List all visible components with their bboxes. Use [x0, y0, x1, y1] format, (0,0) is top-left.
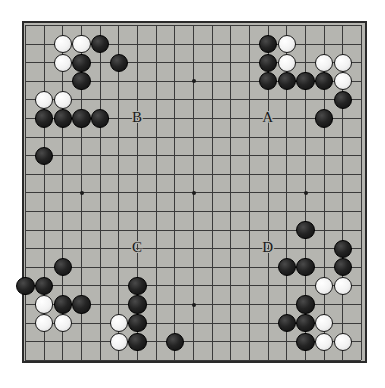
black-stone[interactable]: [315, 72, 333, 90]
black-stone[interactable]: [72, 109, 90, 127]
black-stone[interactable]: [128, 314, 146, 332]
white-stone[interactable]: [54, 54, 72, 72]
black-stone[interactable]: [166, 333, 184, 351]
black-stone[interactable]: [72, 54, 90, 72]
black-stone[interactable]: [296, 295, 314, 313]
white-stone[interactable]: [334, 54, 352, 72]
black-stone[interactable]: [110, 54, 128, 72]
black-stone[interactable]: [54, 295, 72, 313]
black-stone[interactable]: [296, 314, 314, 332]
white-stone[interactable]: [278, 35, 296, 53]
go-diagram: BACD: [0, 0, 385, 388]
black-stone[interactable]: [72, 295, 90, 313]
black-stone[interactable]: [315, 109, 333, 127]
black-stone[interactable]: [54, 109, 72, 127]
black-stone[interactable]: [334, 258, 352, 276]
grid-line-horizontal: [25, 248, 361, 249]
grid-line-vertical: [230, 25, 231, 360]
white-stone[interactable]: [315, 333, 333, 351]
grid-line-vertical: [249, 25, 250, 360]
white-stone[interactable]: [315, 54, 333, 72]
white-stone[interactable]: [110, 314, 128, 332]
grid-line-horizontal: [25, 211, 361, 212]
black-stone[interactable]: [296, 221, 314, 239]
star-point: [192, 303, 196, 307]
white-stone[interactable]: [54, 35, 72, 53]
black-stone[interactable]: [35, 277, 53, 295]
white-stone[interactable]: [35, 91, 53, 109]
white-stone[interactable]: [54, 91, 72, 109]
black-stone[interactable]: [259, 72, 277, 90]
black-stone[interactable]: [278, 72, 296, 90]
grid-line-vertical: [212, 25, 213, 360]
marker-label-a: A: [261, 110, 275, 125]
black-stone[interactable]: [296, 72, 314, 90]
black-stone[interactable]: [334, 91, 352, 109]
black-stone[interactable]: [72, 72, 90, 90]
grid-line-horizontal: [25, 285, 361, 286]
star-point: [192, 191, 196, 195]
star-point: [80, 191, 84, 195]
black-stone[interactable]: [16, 277, 34, 295]
black-stone[interactable]: [35, 147, 53, 165]
marker-label-c: C: [130, 240, 144, 255]
black-stone[interactable]: [278, 258, 296, 276]
white-stone[interactable]: [315, 277, 333, 295]
black-stone[interactable]: [91, 109, 109, 127]
white-stone[interactable]: [278, 54, 296, 72]
black-stone[interactable]: [128, 295, 146, 313]
black-stone[interactable]: [128, 333, 146, 351]
grid-line-horizontal: [25, 360, 361, 361]
star-point: [192, 79, 196, 83]
white-stone[interactable]: [72, 35, 90, 53]
black-stone[interactable]: [35, 109, 53, 127]
white-stone[interactable]: [54, 314, 72, 332]
black-stone[interactable]: [334, 240, 352, 258]
black-stone[interactable]: [259, 35, 277, 53]
black-stone[interactable]: [296, 258, 314, 276]
black-stone[interactable]: [278, 314, 296, 332]
black-stone[interactable]: [296, 333, 314, 351]
black-stone[interactable]: [128, 277, 146, 295]
marker-label-d: D: [261, 240, 275, 255]
grid-line-vertical: [361, 25, 362, 360]
white-stone[interactable]: [334, 277, 352, 295]
black-stone[interactable]: [91, 35, 109, 53]
black-stone[interactable]: [259, 54, 277, 72]
white-stone[interactable]: [334, 333, 352, 351]
black-stone[interactable]: [54, 258, 72, 276]
go-board[interactable]: BACD: [22, 21, 367, 363]
white-stone[interactable]: [110, 333, 128, 351]
white-stone[interactable]: [334, 72, 352, 90]
white-stone[interactable]: [35, 314, 53, 332]
marker-label-b: B: [130, 110, 144, 125]
star-point: [304, 191, 308, 195]
white-stone[interactable]: [315, 314, 333, 332]
white-stone[interactable]: [35, 295, 53, 313]
